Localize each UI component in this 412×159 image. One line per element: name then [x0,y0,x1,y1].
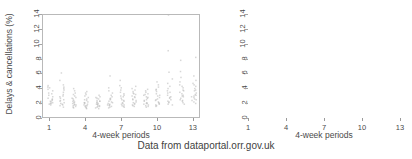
y-tickmark-2 [245,103,248,104]
strip-point [156,91,158,93]
y-tickmark-14 [245,14,248,15]
strip-point [193,84,195,86]
strip-point [167,90,169,92]
strip-point [98,98,100,100]
strip-point [74,95,76,97]
strip-point [182,102,184,104]
strip-point [168,72,170,74]
strip-point [147,97,149,99]
strip-point [147,93,149,95]
strip-point [73,88,75,90]
y-tickmark-12 [245,29,248,30]
strip-point [99,96,101,98]
strip-point [109,75,111,77]
x-tickmark-10 [362,118,363,121]
strip-point [48,92,50,94]
strip-point [123,96,125,98]
strip-point [72,106,74,108]
strip-point [63,89,65,91]
strip-point [155,99,157,101]
strip-point [63,88,65,90]
strip-point [59,96,61,98]
y-tickmark-0 [245,118,248,119]
strip-point [133,102,135,104]
strip-point [48,95,50,97]
strip-point [145,90,147,92]
strip-point [99,100,101,102]
strip-point [158,84,160,86]
strip-point [192,83,194,85]
strip-point [144,100,146,102]
strip-point [47,98,49,100]
strip-point [109,104,111,106]
strip-point [98,95,100,97]
strip-point [169,97,171,99]
strip-point [157,95,159,97]
strip-point [75,97,77,99]
strip-point [63,106,65,108]
x-tick-1: 1 [246,123,250,132]
strip-point [194,98,196,100]
strip-point [120,89,122,91]
strip-point [145,92,147,94]
strip-point [51,93,53,95]
strip-point [121,87,123,89]
strip-point [86,105,88,107]
strip-point [120,92,122,94]
strip-point [63,94,65,96]
strip-point [96,100,98,102]
strip-point [195,95,197,97]
strip-point [179,84,181,86]
strip-point [86,91,88,93]
strip-point [83,104,85,106]
strip-point [111,101,113,103]
strip-point [87,103,89,105]
strip-point [158,102,160,104]
strip-point [119,80,121,82]
strip-point [195,86,197,88]
strip-point [156,81,158,83]
strip-point [159,95,161,97]
strip-point [96,98,98,100]
strip-point [195,99,197,101]
strip-point [193,97,195,99]
strip-point [86,98,88,100]
strip-point [120,95,122,97]
y-tickmark-12 [39,29,42,30]
strip-point [72,103,74,105]
strip-point [63,92,65,94]
strip-point [63,86,65,88]
strip-point [112,92,114,94]
strip-point [167,103,169,105]
strip-point [72,100,74,102]
strip-point [85,94,87,96]
strip-point [59,105,61,107]
strip-point [170,99,172,101]
strip-point [85,92,87,94]
strip-point [121,103,123,105]
strip-point [184,103,186,105]
y-tickmark-14 [39,14,42,15]
strip-point [134,89,136,91]
strip-point [131,88,133,90]
strip-point [109,106,111,108]
strip-point [84,99,86,101]
strip-point [169,86,171,88]
strip-point [75,104,77,106]
strip-point [168,101,170,103]
strip-point [143,95,145,97]
strip-point [155,104,157,106]
strip-point [143,103,145,105]
strip-point [71,98,73,100]
strip-point [96,103,98,105]
strip-point [95,107,97,109]
strip-point [122,103,124,105]
x-tick-1: 1 [47,123,51,132]
strip-point [121,99,123,101]
strip-point [61,103,63,105]
strip-point [135,86,137,88]
strip-point [47,86,49,88]
strip-point [194,88,196,90]
strip-point [123,93,125,95]
strip-point [74,101,76,103]
